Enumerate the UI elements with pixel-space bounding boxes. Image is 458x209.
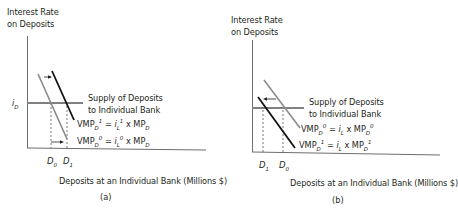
vmp-sub: D — [317, 146, 321, 152]
vmp-name: VMP — [77, 136, 95, 146]
supply-label-line2: to Individual Bank — [309, 109, 381, 119]
x-tick-d0: D0 — [47, 156, 57, 170]
y-axis-label-line2: on Deposits — [7, 19, 54, 29]
x-tick-d1: D1 — [63, 156, 73, 170]
vmp1-label: VMPD1 = iL x MPD1 — [299, 140, 372, 150]
vmp0-curve — [38, 74, 67, 139]
x-tick-d1: D1 — [259, 160, 269, 174]
panel-caption: (b) — [332, 195, 344, 205]
times-mp: x MP — [123, 136, 145, 146]
vmp0-label: VMPD0 = iL0 x MPD — [77, 136, 150, 146]
x-axis-label: Deposits at an Individual Bank (Millions… — [290, 178, 458, 188]
y-axis-label-line2: on Deposits — [231, 27, 278, 37]
panel-b: Interest Rate on Deposits Supply of Depo… — [221, 0, 442, 209]
rate-sub: L — [117, 125, 120, 131]
mp-sup: 0 — [370, 123, 374, 129]
tick-sub: 0 — [54, 162, 58, 168]
equals: = — [102, 136, 114, 146]
x-axis-label: Deposits at an Individual Bank (Millions… — [59, 176, 227, 186]
arrowhead-left-icon — [263, 97, 267, 100]
rate-sub: L — [117, 142, 120, 148]
vmp-name: VMP — [299, 140, 317, 150]
equals: = — [102, 119, 114, 129]
vmp1-label: VMPD1 = iL1 x MPD — [77, 119, 150, 129]
supply-label-line1: Supply of Deposits — [309, 97, 384, 107]
vmp1-curve — [258, 97, 295, 148]
vmp0-curve — [264, 80, 300, 128]
times-mp: x MP — [344, 124, 366, 134]
tick-sub: 1 — [266, 166, 270, 172]
tick-sub: 0 — [286, 166, 290, 172]
y-axis-label-line1: Interest Rate — [7, 7, 59, 17]
vmp-sub: D — [95, 142, 99, 148]
x-axis — [252, 152, 440, 155]
y-axis-label-line1: Interest Rate — [231, 15, 283, 25]
equals: = — [324, 140, 336, 150]
supply-label-line2: to Individual Bank — [88, 105, 160, 115]
mp-sub: D — [145, 125, 149, 131]
times-mp: x MP — [342, 140, 364, 150]
mp-sup: 1 — [368, 139, 372, 145]
vmp-name: VMP — [77, 119, 95, 129]
vmp-sub: D — [319, 130, 323, 136]
arrowhead-right-icon — [48, 75, 52, 78]
arrowhead-right-icon — [60, 140, 64, 143]
supply-label-line1: Supply of Deposits — [88, 93, 163, 103]
y-tick-id: iD — [12, 98, 19, 108]
panel-a: Interest Rate on Deposits iD Supply of D… — [0, 0, 221, 209]
x-tick-d0: D0 — [279, 160, 289, 174]
vmp0-label: VMPD0 = iL x MPD0 — [301, 124, 374, 134]
vmp-sub: D — [95, 125, 99, 131]
equals: = — [326, 124, 338, 134]
tick-sub: 1 — [70, 162, 74, 168]
panel-caption: (a) — [100, 192, 111, 202]
vmp-name: VMP — [301, 124, 319, 134]
mp-sub: D — [364, 146, 368, 152]
times-mp: x MP — [123, 119, 145, 129]
mp-sub: D — [145, 142, 149, 148]
mp-sub: D — [366, 130, 370, 136]
x-axis — [27, 148, 206, 150]
y-tick-sub: D — [14, 104, 18, 110]
